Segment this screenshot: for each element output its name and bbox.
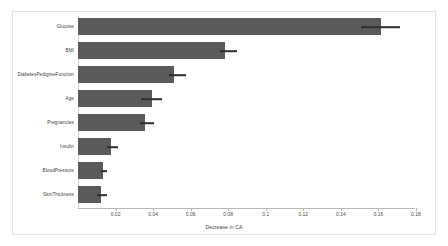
x-tick-label: 0.06 <box>186 212 196 217</box>
x-tick-label: 0.02 <box>111 212 121 217</box>
x-tick-label: 0.1 <box>262 212 269 217</box>
bar-category-label: BloodPressure <box>0 169 74 174</box>
x-tick-label: 0.04 <box>148 212 158 217</box>
error-bar <box>141 98 162 100</box>
x-tick-label: 0.08 <box>223 212 233 217</box>
bar-row: Pregnancies <box>0 112 448 134</box>
bar <box>78 114 145 131</box>
bar-category-label: Pregnancies <box>0 121 74 126</box>
plot-area: GlucoseBMIDiabetesPedigreeFunctionAgePre… <box>0 0 448 246</box>
bar <box>78 162 103 179</box>
x-axis-title: Decrease in CA <box>0 225 448 230</box>
error-bar <box>140 122 154 124</box>
bar-category-label: SkinThickness <box>0 193 74 198</box>
error-bar <box>169 74 186 76</box>
x-tick-label: 0.12 <box>298 212 308 217</box>
error-bar <box>101 170 107 172</box>
error-bar <box>220 50 237 52</box>
bar <box>78 42 225 59</box>
bar <box>78 18 381 35</box>
chart-screenshot: GlucoseBMIDiabetesPedigreeFunctionAgePre… <box>0 0 448 246</box>
bar <box>78 66 174 83</box>
x-axis-line <box>78 208 415 209</box>
error-bar <box>107 146 118 148</box>
bar-row: BMI <box>0 40 448 62</box>
bar-row: SkinThickness <box>0 184 448 206</box>
x-tick-label: 0.18 <box>411 212 421 217</box>
x-tick-label: 0.16 <box>374 212 384 217</box>
bar-category-label: DiabetesPedigreeFunction <box>0 73 74 78</box>
bar-row: Age <box>0 88 448 110</box>
error-bar <box>97 194 107 196</box>
bar-row: Insulin <box>0 136 448 158</box>
bar-row: DiabetesPedigreeFunction <box>0 64 448 86</box>
bar-row: BloodPressure <box>0 160 448 182</box>
bar-category-label: BMI <box>0 49 74 54</box>
error-bar <box>361 26 400 28</box>
x-tick-label: 0.14 <box>336 212 346 217</box>
bar-category-label: Insulin <box>0 145 74 150</box>
bar-category-label: Age <box>0 97 74 102</box>
bar-row: Glucose <box>0 16 448 38</box>
bar-category-label: Glucose <box>0 25 74 30</box>
